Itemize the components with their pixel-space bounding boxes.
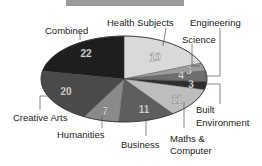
label-engineering: Engineering (190, 17, 241, 28)
label-humanities: Humanities (57, 129, 105, 140)
label-combined: Combined (45, 25, 88, 36)
value-combined: 22 (80, 48, 92, 59)
leader-built (205, 84, 220, 104)
label-maths-line2: Computer (170, 145, 212, 156)
value-built: 3 (188, 79, 194, 90)
value-creative: 20 (60, 86, 72, 97)
pie-chart: Health Subjects Engineering Science Comb… (0, 0, 262, 166)
label-maths-line1: Maths & (170, 133, 206, 144)
label-health: Health Subjects (107, 17, 174, 28)
value-engineering: 4 (178, 70, 184, 81)
value-maths: 11 (172, 94, 183, 105)
value-health: 19 (149, 52, 161, 63)
label-business: Business (121, 139, 160, 150)
label-built-line1: Built (196, 104, 215, 115)
value-science: 3 (186, 65, 192, 76)
label-science: Science (182, 34, 216, 45)
label-built-line2: Environment (196, 117, 250, 128)
label-creative: Creative Arts (13, 112, 68, 123)
value-business: 11 (139, 104, 150, 115)
value-humanities: 7 (102, 106, 108, 117)
